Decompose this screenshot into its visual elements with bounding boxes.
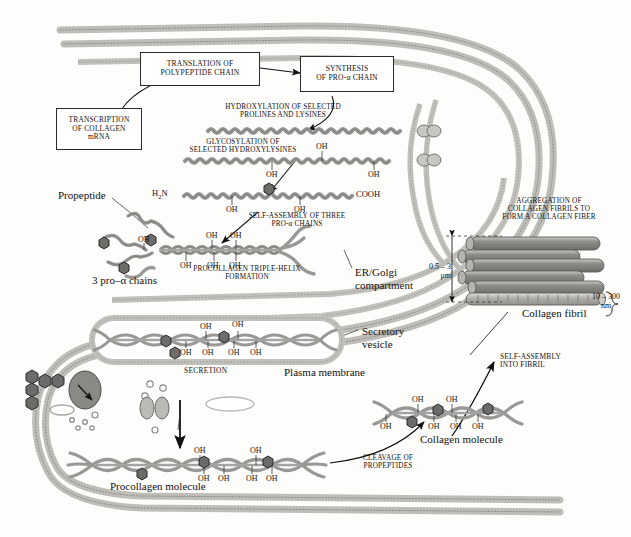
step-secretion: SECRETION xyxy=(184,367,227,375)
oh-mark: OH xyxy=(380,422,392,431)
oh-mark: OH xyxy=(207,261,219,270)
sugar-group-icon xyxy=(264,183,274,195)
step-triple-helix: PROCOLLAGEN TRIPLE-HELIX FORMATION xyxy=(176,265,318,281)
label-plasma-membrane: Plasma membrane xyxy=(284,366,365,378)
label-3-pro-alpha-chains: 3 pro–α chains xyxy=(92,274,157,286)
exocytosis-region xyxy=(26,370,254,433)
step-aggregation: AGGREGATION OF COLLAGEN FIBRILS TO FORM … xyxy=(478,197,620,221)
step-self-assembly-three: SELF-ASSEMBLY OF THREE PRO-α CHAINS xyxy=(222,212,372,228)
box-translation[interactable]: TRANSLATION OF POLYPEPTIDE CHAIN xyxy=(140,52,260,86)
oh-mark: OH xyxy=(198,474,210,483)
label-secretory-vesicle: Secretory vesicle xyxy=(362,325,404,350)
oh-mark: OH xyxy=(446,395,458,404)
box-synthesis[interactable]: SYNTHESIS OF PRO-α CHAIN xyxy=(300,56,394,92)
dimension-fibril-diameter: 10 – 300 nm xyxy=(584,292,628,310)
procollagen-molecule xyxy=(68,453,326,480)
collagen-synthesis-figure: TRANSCRIPTION OF COLLAGEN mRNA TRANSLATI… xyxy=(0,0,631,537)
oh-mark: OH xyxy=(200,322,212,331)
oh-mark: OH xyxy=(246,474,258,483)
label-procollagen-molecule: Procollagen molecule xyxy=(110,480,206,492)
step-hydroxylation: HYDROXYLATION OF SELECTED PROLINES AND L… xyxy=(178,103,388,119)
oh-mark: OH xyxy=(226,205,238,214)
oh-mark: OH xyxy=(450,422,462,431)
pro-alpha-chain-1 xyxy=(208,129,400,133)
oh-mark: OH xyxy=(229,261,241,270)
oh-mark: OH xyxy=(412,395,424,404)
oh-mark: OH xyxy=(228,348,240,357)
oh-mark: OH xyxy=(232,320,244,329)
step-self-assembly-fibril: SELF-ASSEMBLY INTO FIBRIL xyxy=(500,353,600,370)
oh-mark: OH xyxy=(206,231,218,240)
oh-mark: OH xyxy=(202,348,214,357)
step-cleavage: CLEAVAGE OF PROPEPTIDES xyxy=(336,454,440,470)
oh-mark: OH xyxy=(266,170,278,179)
oh-mark: OH xyxy=(138,235,150,244)
dimension-fiber-diameter: 0.5 – 3 μm xyxy=(423,262,451,280)
oh-mark: OH xyxy=(230,231,242,240)
oh-mark: OH xyxy=(194,446,206,455)
oh-mark: OH xyxy=(294,205,306,214)
collagen-molecule xyxy=(374,402,522,428)
label-er-golgi: ER/Golgi compartment xyxy=(355,266,413,291)
oh-mark: OH xyxy=(250,348,262,357)
secretory-vesicle xyxy=(92,318,342,362)
label-collagen-fibril: Collagen fibril xyxy=(522,307,586,319)
oh-mark: OH xyxy=(250,446,262,455)
oh-mark: OH xyxy=(472,422,484,431)
oh-mark: OH xyxy=(180,348,192,357)
oh-mark: OH xyxy=(428,422,440,431)
carboxy-terminus-label: COOH xyxy=(356,190,380,200)
box-transcription[interactable]: TRANSCRIPTION OF COLLAGEN mRNA xyxy=(56,108,142,150)
label-propeptide: Propeptide xyxy=(58,189,106,201)
label-collagen-molecule: Collagen molecule xyxy=(420,433,503,445)
pro-alpha-chain-3 xyxy=(184,183,352,205)
step-glycosylation: GLYCOSYLATION OF SELECTED HYDROXYLYSINES xyxy=(152,138,334,154)
oh-mark: OH xyxy=(218,474,230,483)
oh-mark: OH xyxy=(180,261,192,270)
oh-mark: OH xyxy=(368,170,380,179)
oh-mark: OH xyxy=(316,142,328,151)
amino-terminus-label: H2N xyxy=(152,189,168,200)
oh-mark: OH xyxy=(266,474,278,483)
